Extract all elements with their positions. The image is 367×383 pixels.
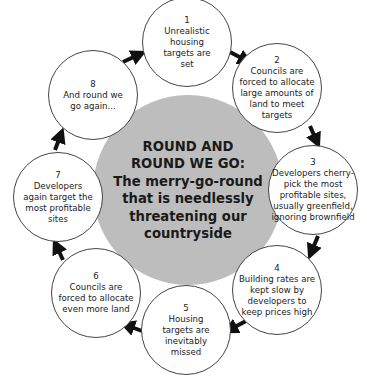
step-text: Developers again target the most profita… bbox=[14, 181, 102, 225]
step-1-circle: 1 Unrealistic housing targets are set bbox=[142, 0, 232, 87]
step-text: Councils are forced to allocate even mor… bbox=[52, 282, 140, 315]
arrow-4-to-5 bbox=[229, 321, 246, 330]
step-number: 4 bbox=[274, 263, 279, 274]
step-number: 3 bbox=[310, 157, 315, 168]
arrow-5-to-6 bbox=[126, 325, 142, 331]
step-number: 2 bbox=[274, 55, 279, 66]
step-text: Building rates are kept slow by develope… bbox=[233, 274, 321, 318]
arrow-8-to-1 bbox=[123, 54, 140, 62]
step-number: 6 bbox=[93, 271, 98, 282]
step-4-circle: 4 Building rates are kept slow by develo… bbox=[232, 245, 322, 335]
arrow-3-to-4 bbox=[311, 236, 318, 253]
step-text: Councils are forced to allocate large am… bbox=[233, 66, 321, 121]
step-7-circle: 7 Developers again target the most profi… bbox=[13, 152, 103, 242]
step-text: And round we go again... bbox=[49, 90, 137, 112]
step-number: 7 bbox=[55, 170, 60, 181]
arrow-6-to-7 bbox=[56, 245, 63, 260]
step-text: Developers cherry-pick the most profitab… bbox=[269, 168, 357, 223]
step-5-circle: 5 Housing targets are inevitably missed bbox=[141, 285, 231, 375]
step-8-circle: 8 And round we go again... bbox=[48, 50, 138, 140]
step-number: 1 bbox=[184, 15, 189, 26]
step-text: Housing targets are inevitably missed bbox=[142, 314, 230, 358]
step-2-circle: 2 Councils are forced to allocate large … bbox=[232, 43, 322, 133]
arrow-7-to-8 bbox=[55, 134, 61, 150]
step-number: 8 bbox=[90, 79, 95, 90]
step-number: 5 bbox=[183, 303, 188, 314]
arrow-2-to-3 bbox=[310, 126, 317, 142]
step-text: Unrealistic housing targets are set bbox=[143, 26, 231, 70]
step-3-circle: 3 Developers cherry-pick the most profit… bbox=[268, 145, 358, 235]
step-6-circle: 6 Councils are forced to allocate even m… bbox=[51, 248, 141, 338]
